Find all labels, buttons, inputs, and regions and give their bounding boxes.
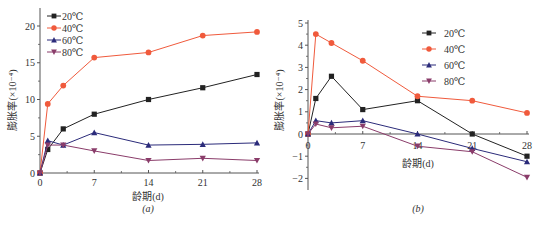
legend-label: 40℃ [62,23,83,34]
square-marker [200,85,205,90]
circle-marker [91,55,97,61]
square-marker [524,154,529,159]
circle-marker [415,93,421,99]
x-axis-label: 龄期(d) [402,157,434,170]
y-tick-label: 20 [25,21,35,32]
circle-marker [60,83,66,89]
x-tick-label: 7 [360,140,365,151]
legend-label: 20℃ [62,11,83,22]
y-tick-label: 1 [298,106,303,117]
legend-label: 80℃ [62,47,83,58]
square-marker [254,72,259,77]
x-tick-label: 14 [144,177,154,188]
legend: 20℃40℃60℃80℃ [47,11,83,58]
y-tick-label: 5 [30,131,35,142]
figure: 0510152007142128龄期(d)(a)膨胀率(×10⁻⁴)20℃40℃… [0,0,539,226]
y-tick-label: 2 [298,84,303,95]
chart-caption: (a) [142,203,154,215]
legend-label: 20℃ [444,28,465,39]
circle-marker [146,50,152,56]
y-axis-label: 膨胀率(×10⁻⁴) [273,69,286,130]
triangle-up-marker [91,129,97,135]
y-tick-label: 15 [25,57,35,68]
x-axis-label: 龄期(d) [132,190,164,203]
legend-label: 80℃ [444,76,465,87]
chart-caption: (b) [412,203,424,215]
square-marker [61,126,66,131]
circle-marker [51,25,56,30]
square-marker [146,97,151,102]
x-tick-label: 28 [522,140,532,151]
chart-b: −2−101234507142128龄期(d)(b)膨胀率(×10⁻⁴)20℃4… [273,18,532,216]
y-tick-label: −1 [292,151,303,162]
circle-marker [469,98,475,104]
circle-marker [329,40,335,46]
y-tick-label: 0 [298,129,303,140]
y-axis-label: 膨胀率(×10⁻⁴) [6,69,19,130]
legend-label: 40℃ [444,44,465,55]
y-tick-label: 3 [298,62,303,73]
y-tick-label: 0 [30,168,35,179]
circle-marker [524,110,530,116]
y-tick-label: 4 [298,40,303,51]
circle-marker [360,58,366,64]
x-tick-label: 0 [306,140,311,151]
x-tick-label: 21 [198,177,208,188]
x-tick-label: 0 [38,177,43,188]
y-tick-label: 5 [298,18,303,29]
y-tick-label: 10 [25,94,35,105]
x-tick-label: 28 [252,177,262,188]
square-marker [360,107,365,112]
square-marker [470,131,475,136]
x-tick-label: 7 [92,177,97,188]
square-marker [329,74,334,79]
triangle-down-marker [524,175,530,181]
chart-a: 0510152007142128龄期(d)(a)膨胀率(×10⁻⁴)20℃40℃… [6,8,262,215]
circle-marker [45,101,51,107]
circle-marker [200,33,206,39]
series-line [308,34,527,134]
legend: 20℃40℃60℃80℃ [422,28,465,87]
series-line [40,133,257,173]
square-marker [52,14,57,19]
circle-marker [313,31,319,37]
square-marker [92,112,97,117]
square-marker [313,96,318,101]
y-tick-label: −2 [292,173,303,184]
triangle-up-marker [45,138,51,144]
legend-label: 60℃ [444,60,465,71]
square-marker [427,31,432,36]
circle-marker [254,29,260,35]
circle-marker [426,46,431,51]
legend-label: 60℃ [62,35,83,46]
